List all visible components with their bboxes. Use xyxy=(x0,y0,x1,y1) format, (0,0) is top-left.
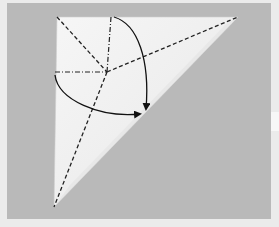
origami-diagram xyxy=(0,0,279,227)
image-frame xyxy=(0,0,279,227)
